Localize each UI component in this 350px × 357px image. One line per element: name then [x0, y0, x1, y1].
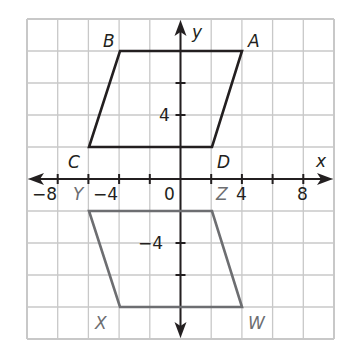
- vertex-label-B: B: [103, 31, 115, 51]
- vertex-label-X: X: [94, 313, 107, 333]
- coordinate-plane: y x −8 −4 0 4 8 4 −4 A B C D W X Y Z: [0, 0, 350, 357]
- vertex-label-Y: Y: [73, 184, 85, 204]
- x-axis-label: x: [315, 151, 327, 171]
- parallelogram-ABCD: [89, 51, 242, 147]
- parallelogram-WXYZ: [89, 211, 242, 307]
- x-tick-label: −4: [93, 184, 118, 204]
- y-axis-label: y: [191, 22, 203, 42]
- y-tick-label: 4: [159, 105, 170, 125]
- vertex-label-W: W: [248, 313, 266, 333]
- x-tick-label: −8: [32, 184, 57, 204]
- vertex-label-C: C: [68, 152, 80, 172]
- x-tick-label: 4: [236, 184, 247, 204]
- vertex-label-Z: Z: [215, 184, 228, 204]
- x-tick-label: 8: [297, 184, 308, 204]
- vertex-label-A: A: [247, 31, 260, 51]
- x-tick-label: 0: [164, 184, 175, 204]
- y-tick-label: −4: [138, 233, 163, 253]
- vertex-label-D: D: [217, 152, 230, 172]
